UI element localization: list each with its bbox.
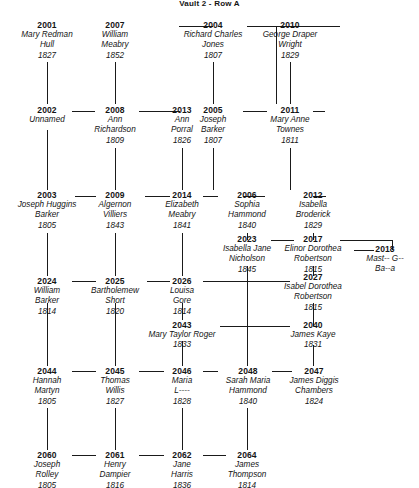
node-id: 2064 [207,450,287,460]
node-name-line2: Gore [142,296,222,306]
person-node: 2010 George Draper Wright 1829 [246,20,334,61]
node-name-line2: Townes [250,125,330,135]
node-year: 1852 [75,51,155,61]
node-id: 2005 [173,105,253,115]
node-name-line2: Thompson [207,470,287,480]
person-node: 2026 Louisa Gore 1814 [142,276,222,317]
person-node: 2004 Richard Charles Jones 1807 [168,20,258,61]
node-name-line1: James Diggis [270,376,358,386]
node-name-line2: Wright [246,40,334,50]
person-node: 2040 James Kaye 1831 [273,320,353,351]
node-id: 2010 [246,20,334,30]
node-id: 2011 [250,105,330,115]
node-year: 1807 [173,136,253,146]
node-year: 1815 [268,303,358,313]
node-id: 2012 [273,190,353,200]
node-id: 2043 [130,320,234,330]
node-name-line1: James [207,460,287,470]
person-node: 2018 Mast-- G-- Ba--a [352,244,418,275]
node-year: 1831 [273,340,353,350]
person-node: 2011 Mary Anne Townes 1811 [250,105,330,146]
person-node: 2017 Elinor Dorothea Robertson 1815 [268,234,358,275]
node-year: 1814 [207,481,287,488]
node-name-line1: Elinor Dorothea [268,244,358,254]
node-name-line1: Isabella [273,200,353,210]
node-year: 1829 [273,221,353,231]
node-year: 1807 [168,51,258,61]
person-node: 2005 Joseph Barker 1807 [173,105,253,146]
node-id: 2018 [352,244,418,254]
genealogy-chart: Vault 2 - Row A [0,0,419,488]
person-node: 2007 William Meabry 1852 [75,20,155,61]
node-name-line1: Isabel Dorothea [268,282,358,292]
node-year: 1829 [246,51,334,61]
node-name-line2: Ba--a [352,264,418,274]
node-year: 1833 [130,340,234,350]
node-name-line1: Joseph [173,115,253,125]
node-name-line2: Chambers [270,386,358,396]
person-node: 2064 James Thompson 1814 [207,450,287,488]
chart-title: Vault 2 - Row A [0,0,419,8]
node-name-line1: Louisa [142,286,222,296]
person-node: 2012 Isabella Broderick 1829 [273,190,353,231]
node-name-line2: Meabry [75,40,155,50]
person-node: 2027 Isabel Dorothea Robertson 1815 [268,272,358,313]
node-year: 1814 [142,307,222,317]
node-name-line2: Robertson [268,254,358,264]
node-id: 2040 [273,320,353,330]
node-name-line1: Mary Anne [250,115,330,125]
node-name-line1: William [75,30,155,40]
node-name-line1: George Draper [246,30,334,40]
node-id: 2004 [168,20,258,30]
node-name-line2: Barker [173,125,253,135]
node-name-line2: Broderick [273,210,353,220]
person-node: 2047 James Diggis Chambers 1824 [270,366,358,407]
node-name-line2: Jones [168,40,258,50]
node-id: 2026 [142,276,222,286]
node-name-line1: Richard Charles [168,30,258,40]
node-id: 2027 [268,272,358,282]
node-id: 2007 [75,20,155,30]
node-name-line1: Mast-- G-- [352,254,418,264]
node-year: 1824 [270,397,358,407]
node-name-line2: Robertson [268,292,358,302]
node-name-line1: Mary Taylor Roger [130,330,234,340]
node-name-line1: James Kaye [273,330,353,340]
node-id: 2047 [270,366,358,376]
node-id: 2017 [268,234,358,244]
person-node: 2043 Mary Taylor Roger 1833 [130,320,234,351]
node-year: 1811 [250,136,330,146]
